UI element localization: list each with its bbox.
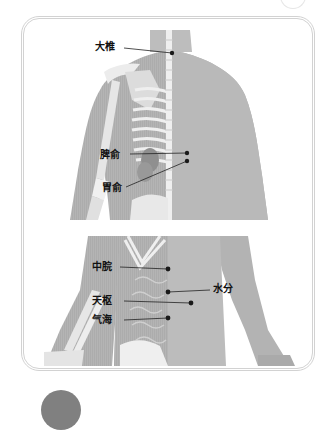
upper-back-figure: [70, 30, 268, 220]
acupoint-label-dazhui: 大椎: [95, 41, 115, 53]
acupoint-label-zhongwan: 中脘: [92, 261, 112, 273]
acupoint-label-qihai: 气海: [92, 314, 112, 326]
lower-front-figure: [44, 236, 295, 366]
acupoint-label-shuifen: 水分: [213, 283, 233, 295]
acupoint-label-pishu: 脾俞: [100, 149, 120, 161]
acupoint-label-tianshu: 天枢: [92, 295, 112, 307]
decorative-disc: [41, 390, 81, 430]
acupoint-label-weishu: 胃俞: [102, 182, 122, 194]
